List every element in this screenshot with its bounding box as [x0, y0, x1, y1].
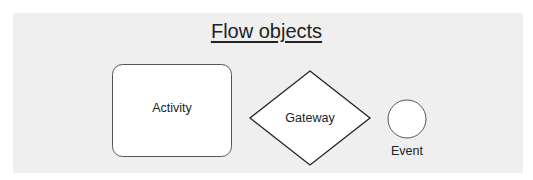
gateway-label: Gateway [250, 111, 370, 125]
event-shape [388, 100, 426, 138]
event-label: Event [377, 144, 437, 158]
flow-objects-shapes [0, 0, 533, 180]
activity-label: Activity [112, 101, 232, 115]
